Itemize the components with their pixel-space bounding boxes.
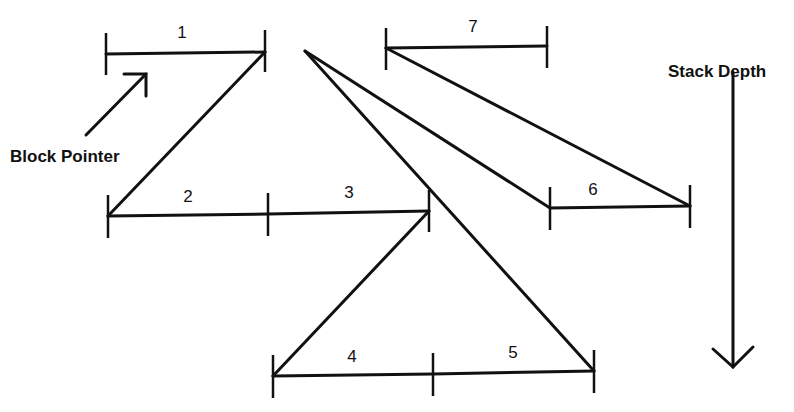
block-1-label: 1: [177, 23, 186, 42]
stack-depth-arrow-icon: [713, 72, 753, 367]
stack-depth-label: Stack Depth: [668, 62, 766, 81]
block-6-label: 6: [588, 180, 597, 199]
block-4: 4: [273, 347, 433, 398]
block-pointer-arrow-icon: [86, 74, 146, 135]
block-3: 3: [268, 183, 429, 236]
block-4-label: 4: [347, 347, 356, 366]
block-7-label: 7: [468, 17, 477, 36]
block-1: 1: [106, 23, 265, 75]
link-7-to-6-end: [386, 48, 690, 206]
block-5: 5: [433, 343, 594, 396]
block-2: 2: [108, 187, 268, 238]
block-6: 6: [550, 180, 690, 230]
stack-depth-diagram: 1 7 2 3 6 4 5: [0, 0, 794, 412]
block-5-label: 5: [508, 343, 517, 362]
block-2-label: 2: [183, 187, 192, 206]
block-pointer-label: Block Pointer: [10, 147, 120, 166]
block-3-label: 3: [344, 183, 353, 202]
